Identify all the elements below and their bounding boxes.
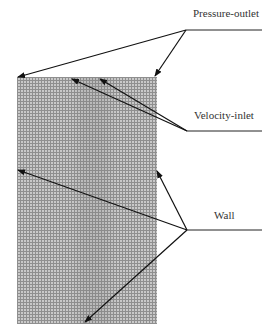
wall-label: Wall — [214, 209, 235, 221]
velocity-inlet-label: Velocity-inlet — [194, 109, 254, 121]
pressure-outlet-label: Pressure-outlet — [193, 7, 259, 19]
annotation-arrows — [0, 0, 274, 336]
